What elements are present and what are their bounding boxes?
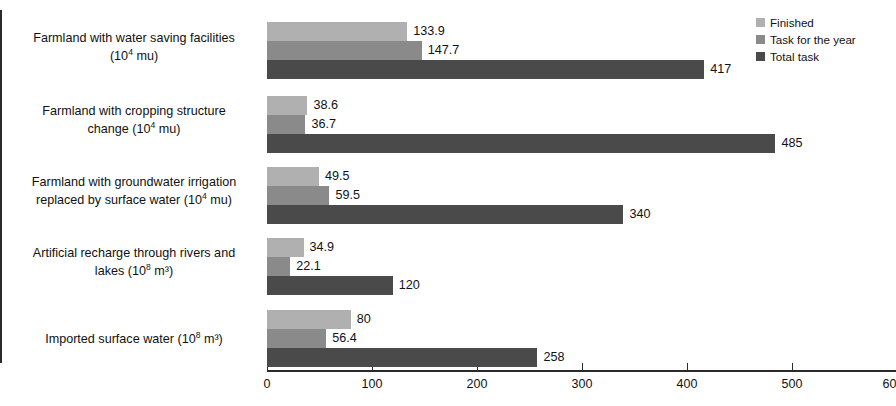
legend-swatch-finished — [756, 18, 765, 27]
x-tick-label-300: 300 — [572, 377, 593, 391]
bar-4-task-year[interactable] — [267, 329, 326, 348]
legend-label-task-for-the-year: Task for the year — [770, 33, 856, 46]
bar-0-total-task[interactable] — [267, 60, 704, 79]
x-tick-label-0: 0 — [264, 377, 271, 391]
x-tick-500 — [792, 363, 793, 372]
category-label-3-line2: lakes (108 m³) — [95, 264, 173, 278]
category-label-0: Farmland with water saving facilities (1… — [8, 30, 260, 64]
bar-1-total-task[interactable] — [267, 134, 775, 153]
bar-value-label-3-task-year: 22.1 — [296, 257, 321, 276]
bar-value-label-4-finished: 80 — [357, 310, 371, 329]
category-label-0-line1: Farmland with water saving facilities — [33, 31, 235, 45]
x-tick-400 — [687, 363, 688, 372]
bar-2-finished[interactable] — [267, 167, 319, 186]
category-label-0-line2: (104 mu) — [110, 49, 158, 63]
legend-swatch-total-task — [756, 52, 765, 61]
bar-0-task-year[interactable] — [267, 41, 422, 60]
category-label-2-line2: replaced by surface water (104 mu) — [36, 193, 232, 207]
bar-value-label-1-finished: 38.6 — [313, 96, 338, 115]
bar-value-label-2-finished: 49.5 — [325, 167, 350, 186]
bar-value-label-2-task-year: 59.5 — [335, 186, 360, 205]
category-label-3: Artificial recharge through rivers and l… — [8, 245, 260, 279]
bar-3-total-task[interactable] — [267, 276, 393, 295]
bar-value-label-0-task-year: 147.7 — [428, 41, 460, 60]
bar-value-label-4-total-task: 258 — [543, 348, 564, 367]
bar-value-label-0-total-task: 417 — [710, 60, 731, 79]
bar-1-task-year[interactable] — [267, 115, 305, 134]
x-tick-label-400: 400 — [677, 377, 698, 391]
bar-value-label-1-total-task: 485 — [781, 134, 802, 153]
bar-value-label-4-task-year: 56.4 — [332, 329, 357, 348]
legend-label-total-task: Total task — [770, 50, 819, 63]
bar-4-total-task[interactable] — [267, 348, 537, 367]
bar-4-finished[interactable] — [267, 310, 351, 329]
horizontal-bar-chart: Farmland with water saving facilities (1… — [0, 0, 896, 406]
bar-1-finished[interactable] — [267, 96, 307, 115]
category-label-2: Farmland with groundwater irrigation rep… — [8, 174, 260, 208]
bar-value-label-0-finished: 133.9 — [413, 22, 445, 41]
legend-item-finished[interactable]: Finished — [756, 14, 856, 31]
category-label-3-line1: Artificial recharge through rivers and — [33, 246, 235, 260]
legend-swatch-task-for-the-year — [756, 35, 765, 44]
bar-3-finished[interactable] — [267, 238, 304, 257]
category-label-1-line1: Farmland with cropping structure — [42, 104, 225, 118]
legend-item-task-for-the-year[interactable]: Task for the year — [756, 31, 856, 48]
legend-item-total-task[interactable]: Total task — [756, 48, 856, 65]
category-label-4-line1: Imported surface water (108 m³) — [45, 332, 223, 346]
y-axis-line — [0, 10, 2, 363]
bar-2-total-task[interactable] — [267, 205, 623, 224]
category-label-4: Imported surface water (108 m³) — [8, 330, 260, 348]
x-tick-label-100: 100 — [362, 377, 383, 391]
category-label-2-line1: Farmland with groundwater irrigation — [32, 175, 236, 189]
bar-0-finished[interactable] — [267, 22, 407, 41]
bar-value-label-2-total-task: 340 — [629, 205, 650, 224]
legend-label-finished: Finished — [770, 16, 814, 29]
bar-2-task-year[interactable] — [267, 186, 329, 205]
bar-value-label-3-total-task: 120 — [399, 276, 420, 295]
x-tick-label-600: 600 — [883, 377, 896, 391]
bar-value-label-3-finished: 34.9 — [310, 238, 335, 257]
bar-3-task-year[interactable] — [267, 257, 290, 276]
bar-value-label-1-task-year: 36.7 — [311, 115, 336, 134]
category-label-1-line2: change (104 mu) — [88, 122, 181, 136]
x-tick-300 — [582, 363, 583, 372]
category-label-1: Farmland with cropping structure change … — [8, 103, 260, 137]
x-tick-label-200: 200 — [467, 377, 488, 391]
chart-legend: Finished Task for the year Total task — [756, 14, 856, 65]
x-tick-label-500: 500 — [782, 377, 803, 391]
